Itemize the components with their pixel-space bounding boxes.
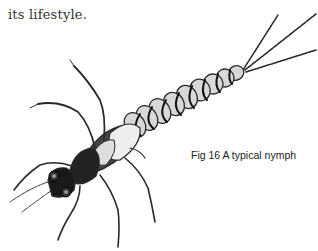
nymph-illustration <box>0 0 318 251</box>
figure-caption: Fig 16 A typical nymph <box>191 149 296 161</box>
